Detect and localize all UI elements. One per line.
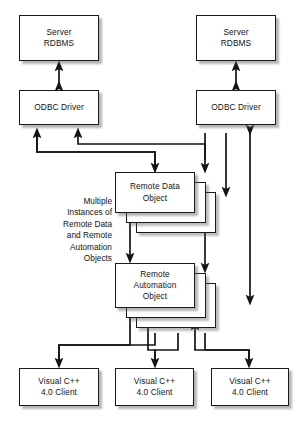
node-label: Remote Data Object [128, 181, 182, 203]
edge-odbc-left-to-rdo [37, 133, 155, 168]
architecture-diagram: Server RDBMS Server RDBMS ODBC Driver OD… [0, 0, 302, 425]
node-label: ODBC Driver [32, 102, 86, 113]
node-remote-data-object[interactable]: Remote Data Object [115, 172, 195, 213]
node-label: Remote Automation Object [132, 269, 179, 303]
edge-client-3-to-rao [195, 325, 249, 363]
node-label: Visual C++ 4.0 Client [132, 376, 177, 398]
node-vc-client-1[interactable]: Visual C++ 4.0 Client [19, 368, 99, 406]
edge-rao-to-client-3 [205, 333, 249, 363]
node-remote-automation-object[interactable]: Remote Automation Object [115, 263, 195, 308]
edge-rao-to-client-1 [59, 333, 155, 363]
node-label: Server RDBMS [219, 27, 253, 49]
edge-rdo-to-odbc-left-outer [37, 133, 155, 168]
node-server-rdbms-right[interactable]: Server RDBMS [196, 15, 276, 61]
edge-rao-to-client-2 [155, 333, 178, 363]
node-odbc-driver-left[interactable]: ODBC Driver [19, 90, 99, 125]
node-server-rdbms-left[interactable]: Server RDBMS [19, 15, 99, 61]
edge-client-1-to-rao [59, 313, 130, 363]
node-label: Visual C++ 4.0 Client [227, 376, 272, 398]
node-label: Server RDBMS [42, 27, 76, 49]
multiple-instances-note: Multiple Instances of Remote Data and Re… [46, 196, 112, 264]
node-label: ODBC Driver [209, 102, 263, 113]
node-label: Visual C++ 4.0 Client [36, 376, 81, 398]
node-odbc-driver-right[interactable]: ODBC Driver [196, 90, 276, 125]
node-vc-client-2[interactable]: Visual C++ 4.0 Client [115, 368, 194, 406]
edge-rdo-to-odbc-left-inner [78, 133, 205, 160]
node-vc-client-3[interactable]: Visual C++ 4.0 Client [211, 368, 289, 406]
